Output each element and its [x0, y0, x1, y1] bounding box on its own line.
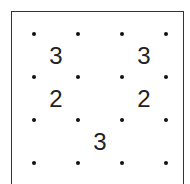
clue-number: 3: [122, 34, 166, 77]
clue-number: 3: [78, 120, 122, 163]
grid-dot: [32, 161, 36, 165]
clue-number: 2: [122, 77, 166, 120]
clue-number: 3: [34, 34, 78, 77]
grid-dot: [164, 161, 168, 165]
clue-number: 2: [34, 77, 78, 120]
